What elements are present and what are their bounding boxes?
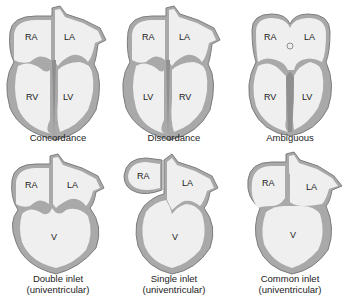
- panel-common-inlet: RA LA V Common inlet (univentricular): [232, 150, 348, 300]
- heart-diagram-ambiguous: [232, 0, 348, 150]
- label-ra: RA: [25, 32, 38, 42]
- label-ra: RA: [25, 180, 38, 190]
- caption-line1: Common inlet: [232, 273, 348, 284]
- label-ra: RA: [264, 32, 277, 42]
- caption: Ambiguous: [232, 132, 348, 143]
- panel-concordance: RA LA RV LV Concordance: [0, 0, 116, 150]
- label-v: V: [51, 232, 57, 242]
- label-la: LA: [182, 178, 193, 188]
- caption-line1: Single inlet: [116, 273, 232, 284]
- label-rv: RV: [264, 92, 276, 102]
- heart-diagram-discordance: [116, 0, 232, 150]
- label-lv: LV: [302, 92, 312, 102]
- label-la: LA: [306, 182, 317, 192]
- label-lv: LV: [63, 92, 73, 102]
- label-v: V: [172, 232, 178, 242]
- label-ra: RA: [262, 178, 275, 188]
- label-la: LA: [67, 180, 78, 190]
- caption-line1: Double inlet: [0, 273, 116, 284]
- panel-single-inlet: RA LA V Single inlet (univentricular): [116, 150, 232, 300]
- panel-double-inlet: RA LA V Double inlet (univentricular): [0, 150, 116, 300]
- label-la: LA: [179, 32, 190, 42]
- label-la: LA: [304, 32, 315, 42]
- caption-line2: (univentricular): [0, 284, 116, 295]
- panel-discordance: RA LA LV RV Discordance: [116, 0, 232, 150]
- label-rv: RV: [26, 92, 38, 102]
- label-ra: RA: [137, 171, 150, 181]
- caption-line2: (univentricular): [116, 284, 232, 295]
- caption-line2: (univentricular): [232, 284, 348, 295]
- caption: Concordance: [0, 132, 116, 143]
- label-lv: LV: [143, 92, 153, 102]
- label-rv: RV: [179, 92, 191, 102]
- label-la: LA: [64, 32, 75, 42]
- heart-diagram-concordance: [0, 0, 116, 150]
- caption: Discordance: [116, 132, 232, 143]
- label-v: V: [290, 230, 296, 240]
- label-ra: RA: [142, 32, 155, 42]
- panel-ambiguous: RA LA RV LV Ambiguous: [232, 0, 348, 150]
